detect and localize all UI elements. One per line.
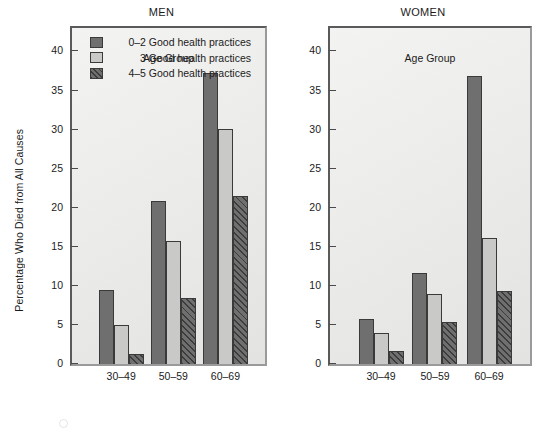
bar-group xyxy=(467,28,512,364)
bar xyxy=(374,333,389,364)
x-tick-label: 30–49 xyxy=(366,370,395,382)
bar xyxy=(129,354,144,364)
chart-title-women: WOMEN xyxy=(300,6,540,18)
bar xyxy=(412,273,427,364)
bar xyxy=(166,241,181,364)
legend-swatch-icon xyxy=(90,37,103,48)
bar xyxy=(114,325,129,364)
plot-area-women xyxy=(330,28,530,364)
bar xyxy=(99,290,114,364)
legend-swatch-icon xyxy=(90,68,103,79)
y-tick-label: 20 xyxy=(29,201,63,213)
legend-item: 0–2 Good health practices xyxy=(90,36,251,48)
figure: Percentage Who Died from All Causes MEN … xyxy=(0,0,544,434)
scan-artifact xyxy=(59,419,68,428)
legend-item-label: 4–5 Good health practices xyxy=(109,67,251,79)
bar xyxy=(497,291,512,364)
x-axis-title-men: Age Group xyxy=(72,52,265,64)
y-tick-label: 25 xyxy=(29,162,63,174)
bar xyxy=(181,298,196,364)
x-tick-label: 60–69 xyxy=(474,370,503,382)
bar xyxy=(203,73,218,364)
legend-item-label: 0–2 Good health practices xyxy=(109,36,251,48)
x-tick-label: 50–59 xyxy=(159,370,188,382)
bar-group xyxy=(359,28,404,364)
bar xyxy=(427,294,442,364)
y-tick-label: 20 xyxy=(287,201,321,213)
bar xyxy=(482,238,497,364)
y-tick-label: 40 xyxy=(29,44,63,56)
x-tick-label: 30–49 xyxy=(107,370,136,382)
y-tick-label: 0 xyxy=(29,357,63,369)
y-tick-label: 10 xyxy=(29,279,63,291)
plot-panel-women: 0510152025303540 30–4950–5960–69 Age Gro… xyxy=(328,26,532,366)
bar xyxy=(442,322,457,364)
legend-item: 4–5 Good health practices xyxy=(90,67,251,79)
y-tick-label: 10 xyxy=(287,279,321,291)
bar xyxy=(233,196,248,364)
y-tick-label: 15 xyxy=(287,240,321,252)
y-tick-label: 40 xyxy=(287,44,321,56)
bar xyxy=(218,129,233,364)
y-tick-label: 35 xyxy=(29,84,63,96)
bar xyxy=(389,351,404,364)
y-axis-title-text: Percentage Who Died from All Causes xyxy=(13,129,25,312)
chart-men: MEN 0510152025303540 0–2 Good health pra… xyxy=(30,0,275,434)
plot-panel-men: 0510152025303540 0–2 Good health practic… xyxy=(70,26,267,366)
x-tick-label: 50–59 xyxy=(420,370,449,382)
bar xyxy=(467,76,482,364)
x-axis-title-women: Age Group xyxy=(330,52,530,64)
bar xyxy=(359,319,374,364)
chart-title-men: MEN xyxy=(30,6,275,18)
bar-group xyxy=(412,28,457,364)
y-tick-label: 5 xyxy=(29,318,63,330)
y-tick-label: 35 xyxy=(287,84,321,96)
y-axis-title: Percentage Who Died from All Causes xyxy=(8,95,30,345)
y-tick-label: 15 xyxy=(29,240,63,252)
y-tick-label: 25 xyxy=(287,162,321,174)
y-tick-label: 30 xyxy=(287,123,321,135)
y-tick-label: 0 xyxy=(287,357,321,369)
chart-women: WOMEN 0510152025303540 30–4950–5960–69 A… xyxy=(300,0,540,434)
y-tick-label: 30 xyxy=(29,123,63,135)
y-tick-label: 5 xyxy=(287,318,321,330)
x-tick-label: 60–69 xyxy=(211,370,240,382)
bar xyxy=(151,201,166,364)
